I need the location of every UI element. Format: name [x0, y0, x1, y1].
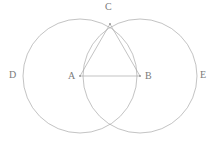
- point-label-e: E: [200, 70, 206, 80]
- segment-cb: [110, 24, 140, 76]
- vertex-marker-b: [139, 75, 141, 77]
- point-label-a: A: [68, 71, 75, 81]
- point-label-b: B: [145, 71, 152, 81]
- point-label-c: C: [105, 2, 112, 12]
- vertex-marker-c: [109, 23, 111, 25]
- vertex-marker-a: [79, 75, 81, 77]
- point-label-d: D: [9, 70, 16, 80]
- geometry-figure: C D A B E: [0, 0, 220, 149]
- geometry-canvas: [0, 0, 220, 149]
- segment-ac: [80, 24, 110, 76]
